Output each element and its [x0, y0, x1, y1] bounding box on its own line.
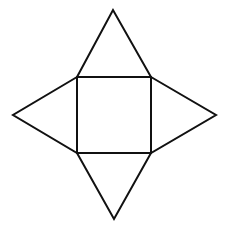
pyramid-net-diagram	[0, 0, 226, 233]
square-base-face	[77, 77, 151, 153]
bottom-triangle-face	[77, 153, 151, 219]
right-triangle-face	[151, 77, 216, 153]
top-triangle-face	[77, 10, 151, 77]
left-triangle-face	[13, 77, 77, 153]
